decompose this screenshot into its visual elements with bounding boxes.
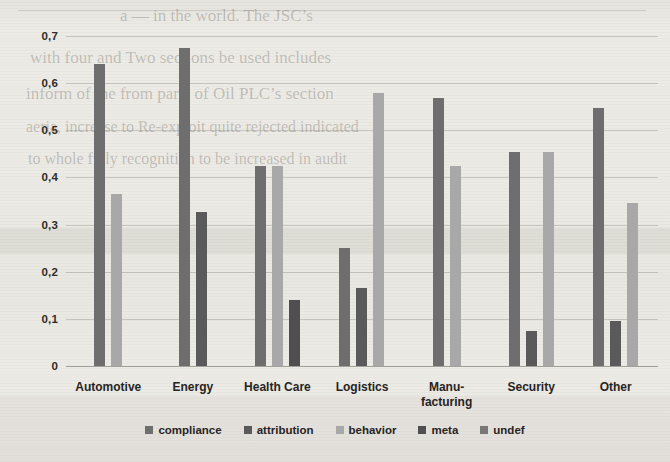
x-axis-label-line: Other (600, 380, 632, 395)
grouped-bar-chart: 00,10,20,30,40,50,60,7 AutomotiveEnergyH… (0, 0, 670, 462)
legend-swatch-icon (418, 426, 426, 434)
x-axis-label: Security (507, 380, 554, 395)
legend-swatch-icon (480, 426, 488, 434)
bar[interactable] (627, 203, 638, 366)
bar[interactable] (339, 248, 350, 366)
y-axis-tick-label: 0,3 (41, 219, 58, 231)
x-axis-category-labels: AutomotiveEnergyHealth CareLogisticsManu… (66, 372, 658, 422)
bar-group (489, 36, 574, 366)
bar[interactable] (179, 48, 190, 366)
bar[interactable] (526, 331, 537, 366)
bar[interactable] (373, 93, 384, 366)
x-axis-label-line: Health Care (244, 380, 311, 395)
bar[interactable] (543, 152, 554, 367)
bar[interactable] (356, 288, 367, 366)
legend-item[interactable]: compliance (145, 424, 221, 436)
legend-swatch-icon (336, 426, 344, 434)
bar[interactable] (433, 98, 444, 366)
legend-label: attribution (257, 424, 314, 436)
legend-item[interactable]: undef (480, 424, 524, 436)
legend-item[interactable]: meta (418, 424, 458, 436)
bar-group (320, 36, 405, 366)
y-axis-tick-labels: 00,10,20,30,40,50,60,7 (18, 36, 58, 366)
bar[interactable] (94, 64, 105, 366)
x-axis-label-line: Security (507, 380, 554, 395)
gridline (66, 366, 658, 367)
legend-label: meta (431, 424, 458, 436)
y-axis-tick-label: 0,5 (41, 124, 58, 136)
bar[interactable] (196, 212, 207, 366)
x-axis-label: Health Care (244, 380, 311, 395)
x-axis-label-line: Automotive (75, 380, 141, 395)
bar[interactable] (255, 166, 266, 366)
legend-item[interactable]: attribution (244, 424, 314, 436)
x-axis-label-line: Manu- (421, 380, 472, 395)
legend-swatch-icon (244, 426, 252, 434)
bar[interactable] (509, 152, 520, 367)
bar[interactable] (272, 166, 283, 366)
bar-group (404, 36, 489, 366)
bar[interactable] (111, 194, 122, 366)
y-axis-tick-label: 0,1 (41, 313, 58, 325)
bar-groups (66, 36, 658, 366)
x-axis-label: Manu-facturing (421, 380, 472, 410)
bar[interactable] (593, 108, 604, 366)
legend-label: behavior (349, 424, 397, 436)
y-axis-tick-label: 0,7 (41, 30, 58, 42)
chart-legend: complianceattributionbehaviormetaundef (0, 424, 670, 436)
y-axis-tick-label: 0,4 (41, 171, 58, 183)
bar-group (151, 36, 236, 366)
legend-swatch-icon (145, 426, 153, 434)
bar-group (235, 36, 320, 366)
y-axis-tick-label: 0,6 (41, 77, 58, 89)
bar-group (573, 36, 658, 366)
plot-area (66, 36, 658, 366)
bar[interactable] (289, 300, 300, 366)
bar[interactable] (610, 321, 621, 366)
x-axis-label: Other (600, 380, 632, 395)
x-axis-label: Energy (173, 380, 214, 395)
bar-group (66, 36, 151, 366)
legend-label: undef (493, 424, 524, 436)
bar[interactable] (450, 166, 461, 366)
x-axis-label-line: Logistics (336, 380, 389, 395)
legend-label: compliance (158, 424, 221, 436)
y-axis-tick-label: 0 (51, 360, 58, 372)
x-axis-label: Automotive (75, 380, 141, 395)
y-axis-tick-label: 0,2 (41, 266, 58, 278)
x-axis-label: Logistics (336, 380, 389, 395)
legend-item[interactable]: behavior (336, 424, 397, 436)
x-axis-label-line: facturing (421, 395, 472, 410)
x-axis-label-line: Energy (173, 380, 214, 395)
